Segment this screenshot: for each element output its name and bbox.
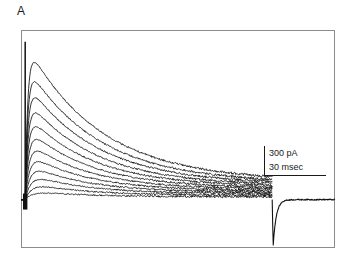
- current-traces-plot: [21, 30, 335, 252]
- scale-bar-current-label: 300 pA: [269, 149, 298, 158]
- tail-transient: [272, 199, 335, 245]
- offset-transient-trace: [272, 199, 335, 245]
- onset-transient-blob: [23, 194, 27, 210]
- panel-label: A: [17, 5, 25, 17]
- scale-bar-vertical-line: [264, 146, 265, 176]
- scale-bar: 300 pA 30 msec: [264, 146, 328, 178]
- traces-group: [21, 63, 272, 200]
- figure-panel-a: A 300 pA 30 msec: [0, 0, 353, 265]
- scale-bar-horizontal-line: [264, 175, 326, 176]
- scale-bar-time-label: 30 msec: [269, 163, 303, 172]
